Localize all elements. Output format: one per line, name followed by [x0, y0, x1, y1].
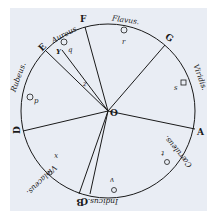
- center-O: O: [110, 108, 118, 118]
- point-D: D: [12, 126, 22, 134]
- mark-z: z: [82, 80, 87, 88]
- marker-t: [165, 160, 170, 165]
- point-A: A: [196, 127, 205, 137]
- marker-r: [121, 27, 127, 33]
- radius-OG: [108, 45, 165, 111]
- radius-OE: [45, 50, 108, 111]
- marker-label-x: x: [54, 152, 58, 160]
- mark-Y: Y: [56, 47, 62, 56]
- radius-OC2: [90, 111, 108, 194]
- radius-OB: [79, 111, 108, 194]
- marker-label-v: v: [110, 176, 114, 184]
- radius-OA: [108, 111, 195, 129]
- point-C: C: [81, 196, 88, 206]
- point-F: F: [80, 14, 87, 24]
- arc-label-rubeus: Rubeus.: [8, 61, 27, 94]
- point-G: G: [163, 31, 175, 44]
- marker-p: [27, 94, 33, 100]
- marker-s: [181, 80, 186, 85]
- arc-label-viridis: Viridis.: [191, 63, 209, 92]
- arc-label-aureus: Aureus.: [49, 23, 80, 45]
- color-circle-diagram: A B C D E F G O Rubeus. Aureus. Flavus. …: [0, 0, 216, 223]
- marker-label-r: r: [122, 38, 126, 46]
- marker-v: [112, 188, 117, 193]
- arc-label-indicus: Indicus.: [88, 197, 119, 206]
- marker-label-p: p: [34, 97, 39, 105]
- marker-label-t: t: [161, 149, 164, 157]
- marker-label-q: q: [68, 46, 73, 54]
- radius-OF: [85, 27, 108, 111]
- radius-OD: [23, 111, 108, 131]
- marker-label-s: s: [174, 84, 178, 92]
- arc-label-violaceus: Violaceus.: [25, 163, 59, 197]
